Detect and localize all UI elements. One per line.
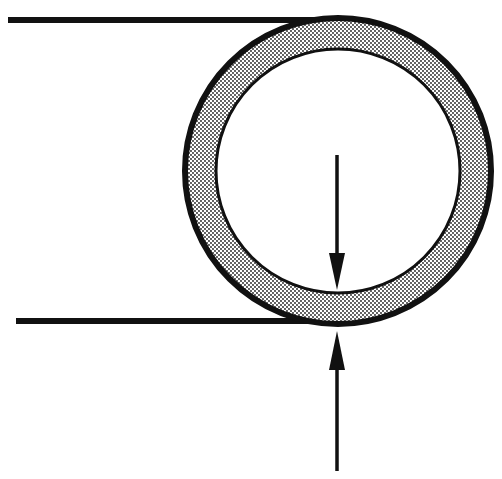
tube-belt-diagram xyxy=(0,0,502,479)
tube-wall-fill xyxy=(0,0,502,479)
